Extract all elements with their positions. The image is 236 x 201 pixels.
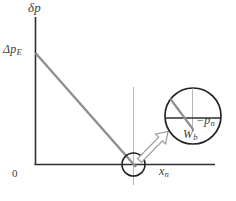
diagram-svg [0,0,236,201]
y-intercept-subscript: E [16,47,21,57]
magnifier-depth-label: −pn [196,114,215,128]
figure-canvas: δp ΔpE 0 xn −pn Wb [0,0,236,201]
x-axis-subscript: n [165,169,170,179]
x-axis-label: xn [159,165,169,179]
origin-label-text: 0 [12,167,18,179]
y-axis-label-text: δp [28,0,41,15]
magnifier-point-label: Wb [183,128,198,142]
magnifier-depth-base: −p [196,113,211,127]
y-intercept-label: ΔpE [3,43,22,57]
zoom-callout-arrow [138,132,168,163]
pressure-line [36,53,137,167]
origin-label: 0 [12,167,18,179]
magnifier-depth-subscript: n [211,118,216,128]
y-axis-label: δp [28,1,41,15]
magnifier-point-subscript: b [193,132,198,142]
magnifier-point-base: W [183,127,193,141]
y-intercept-base: Δp [3,42,16,56]
